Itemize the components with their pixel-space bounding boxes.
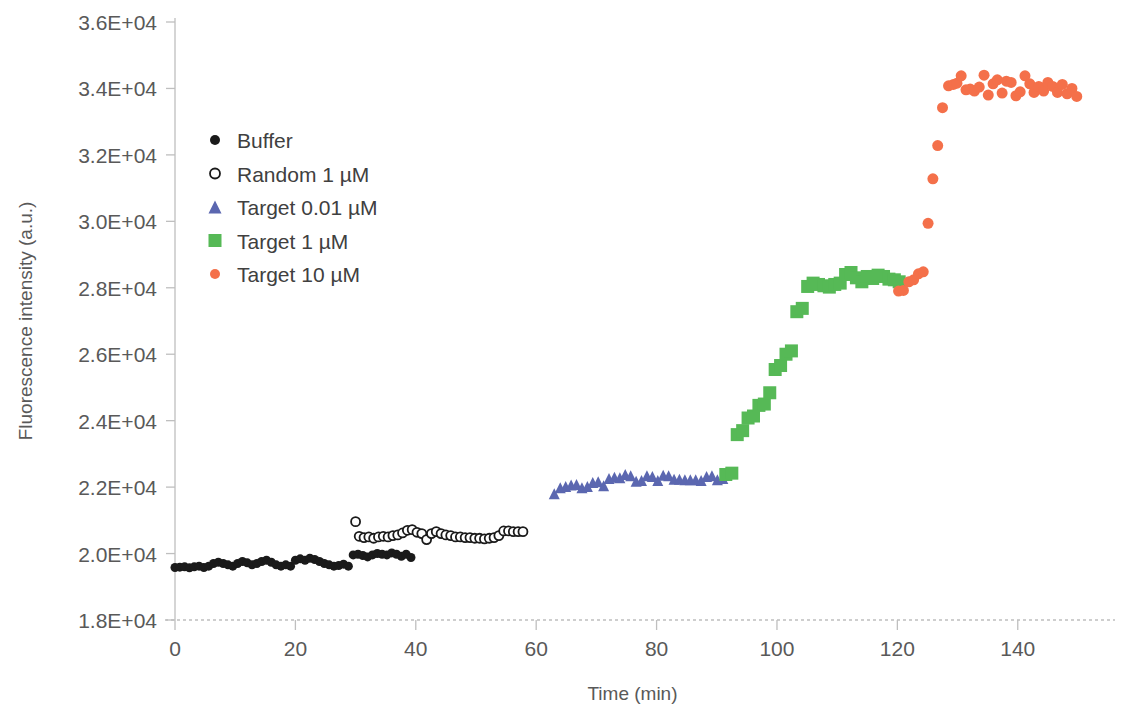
legend-item-2[interactable]: Random 1 µM <box>210 163 369 186</box>
legend-label: Random 1 µM <box>237 163 369 186</box>
y-axis-tick-label: 2.4E+04 <box>78 410 157 433</box>
x-axis-tick-label: 60 <box>525 637 548 660</box>
x-axis-tick-label: 100 <box>759 637 794 660</box>
data-point <box>918 266 929 277</box>
data-point <box>1015 86 1026 97</box>
x-axis-title: Time (min) <box>587 683 677 704</box>
data-point <box>344 562 353 571</box>
data-point <box>1071 91 1082 102</box>
legend-item-3[interactable]: Target 0.01 µM <box>209 196 378 219</box>
series-1 <box>171 548 416 572</box>
x-axis-tick-label: 20 <box>284 637 307 660</box>
y-axis-tick-label: 2.6E+04 <box>78 343 157 366</box>
legend-item-5[interactable]: Target 10 µM <box>210 263 360 286</box>
scatter-plot: 1.8E+042.0E+042.2E+042.4E+042.6E+042.8E+… <box>0 0 1129 714</box>
legend-item-1[interactable]: Buffer <box>210 129 293 152</box>
y-axis-tick-label: 1.8E+04 <box>78 609 157 632</box>
y-axis-tick-label: 3.2E+04 <box>78 144 157 167</box>
x-axis-tick-label: 120 <box>880 637 915 660</box>
y-axis-tick-label: 3.0E+04 <box>78 210 157 233</box>
legend-label: Buffer <box>237 129 293 152</box>
series-5 <box>893 70 1082 297</box>
data-point <box>927 173 938 184</box>
data-point <box>774 359 787 372</box>
data-point <box>351 517 360 526</box>
x-axis-tick-label: 0 <box>169 637 181 660</box>
x-axis-tick-label: 40 <box>404 637 427 660</box>
series-2 <box>351 517 527 544</box>
data-point <box>758 398 771 411</box>
data-point <box>1057 79 1068 90</box>
legend-marker-square-icon <box>209 234 222 247</box>
data-point <box>785 344 798 357</box>
data-point <box>796 302 809 315</box>
legend: BufferRandom 1 µMTarget 0.01 µMTarget 1 … <box>209 129 378 286</box>
data-point <box>763 386 776 399</box>
legend-item-4[interactable]: Target 1 µM <box>209 230 349 253</box>
legend-label: Target 1 µM <box>237 230 348 253</box>
data-point <box>518 527 527 536</box>
data-point <box>974 82 985 93</box>
y-axis-tick-label: 2.2E+04 <box>78 476 157 499</box>
data-point <box>1006 77 1017 88</box>
legend-marker-triangle-icon <box>209 201 222 214</box>
data-point <box>983 90 994 101</box>
data-point <box>956 70 967 81</box>
chart-container: 1.8E+042.0E+042.2E+042.4E+042.6E+042.8E+… <box>0 0 1129 714</box>
y-axis-tick-label: 2.8E+04 <box>78 277 157 300</box>
data-point <box>997 88 1008 99</box>
legend-label: Target 10 µM <box>237 263 360 286</box>
y-axis-tick-label: 3.4E+04 <box>78 77 157 100</box>
x-axis-tick-label: 140 <box>1000 637 1035 660</box>
series-4 <box>719 266 905 481</box>
data-point <box>979 70 990 81</box>
data-point <box>932 140 943 151</box>
legend-marker-open-circle-icon <box>210 169 220 179</box>
data-point <box>937 102 948 113</box>
data-point <box>406 553 415 562</box>
y-axis-tick-label: 3.6E+04 <box>78 11 157 34</box>
data-point <box>923 218 934 229</box>
data-point <box>736 424 749 437</box>
legend-marker-filled-circle-icon <box>210 269 220 279</box>
x-axis-tick-label: 80 <box>645 637 668 660</box>
legend-label: Target 0.01 µM <box>237 196 378 219</box>
data-point <box>725 467 738 480</box>
legend-marker-filled-circle-icon <box>210 135 220 145</box>
y-axis-title: Fluorescence intensity (a.u.) <box>15 202 36 441</box>
series-3 <box>549 469 729 499</box>
y-axis-tick-label: 2.0E+04 <box>78 543 157 566</box>
